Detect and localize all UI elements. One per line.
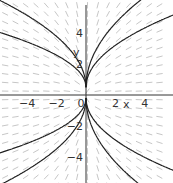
field-arrow <box>54 141 59 145</box>
field-arrow <box>54 46 59 50</box>
field-arrow <box>43 55 49 58</box>
field-arrow <box>12 125 18 126</box>
field-arrow <box>12 133 18 135</box>
field-arrow <box>97 28 99 34</box>
field-arrow <box>126 64 132 66</box>
field-arrow <box>44 166 49 170</box>
field-arrow <box>157 4 162 7</box>
field-arrow <box>33 56 39 58</box>
field-arrow <box>2 175 8 178</box>
field-arrow <box>33 73 39 74</box>
field-arrow <box>66 11 69 17</box>
field-arrow <box>33 47 39 50</box>
field-arrow <box>146 116 152 117</box>
field-arrow <box>43 64 49 66</box>
field-arrow <box>33 116 39 117</box>
field-arrow <box>105 124 110 128</box>
field-arrow <box>105 107 111 109</box>
solution-curve <box>86 15 173 88</box>
field-arrow <box>12 142 18 144</box>
field-arrow <box>105 64 110 68</box>
field-arrow <box>157 38 163 40</box>
field-arrow <box>23 82 29 83</box>
field-arrow <box>126 133 132 136</box>
field-arrow <box>156 82 162 83</box>
field-arrow <box>66 2 69 8</box>
field-arrow <box>2 133 8 135</box>
field-arrow <box>64 107 70 109</box>
field-arrow <box>23 73 29 74</box>
field-arrow <box>106 140 110 145</box>
field-arrow <box>97 11 99 17</box>
field-arrow <box>54 124 60 127</box>
field-arrow <box>156 65 162 66</box>
field-arrow <box>146 56 152 58</box>
field-arrow <box>97 174 99 180</box>
field-arrow <box>105 91 111 92</box>
field-arrow <box>54 73 60 75</box>
field-arrow <box>147 175 152 178</box>
field-arrow <box>2 125 8 126</box>
field-arrow <box>2 108 8 109</box>
field-arrow <box>34 175 39 179</box>
field-arrow <box>77 174 78 180</box>
field-arrow <box>12 108 18 109</box>
field-arrow <box>136 150 142 153</box>
field-arrow <box>105 73 111 76</box>
field-arrow <box>64 91 70 92</box>
field-arrow <box>126 166 131 170</box>
field-arrow <box>156 47 162 49</box>
field-arrow <box>43 82 49 83</box>
field-arrow <box>43 73 49 75</box>
field-arrow <box>126 47 132 50</box>
solution-curve <box>0 0 86 87</box>
field-arrow <box>156 142 162 144</box>
field-arrow <box>97 165 99 171</box>
x-tick-label: 4 <box>141 97 148 110</box>
direction-field-plot: −4−202442−2−4 x y <box>0 0 173 183</box>
field-arrow <box>146 167 152 170</box>
field-arrow <box>136 133 142 135</box>
field-arrow <box>106 55 111 59</box>
field-arrow <box>23 21 28 24</box>
field-arrow <box>116 149 121 153</box>
field-arrow <box>23 158 29 161</box>
field-arrow <box>44 38 49 42</box>
field-arrow <box>116 46 121 50</box>
field-arrow <box>13 12 19 15</box>
x-axis-label: x <box>123 98 130 111</box>
field-arrow <box>146 38 152 41</box>
field-arrow <box>95 115 100 119</box>
field-arrow <box>136 64 142 66</box>
field-arrow <box>74 90 80 91</box>
field-arrow <box>156 116 162 117</box>
field-arrow <box>147 3 152 7</box>
field-arrow <box>23 30 29 33</box>
field-arrow <box>76 19 78 25</box>
field-arrow <box>2 74 8 75</box>
field-arrow <box>13 21 19 24</box>
field-arrow <box>157 150 163 152</box>
field-arrow <box>157 167 163 170</box>
field-arrow <box>156 133 162 135</box>
field-arrow <box>12 56 18 58</box>
field-arrow <box>33 82 39 83</box>
field-arrow <box>33 150 39 153</box>
field-arrow <box>77 11 78 17</box>
field-arrow <box>106 20 109 25</box>
field-arrow <box>55 20 59 25</box>
field-arrow <box>12 73 18 74</box>
field-arrow <box>23 150 29 153</box>
field-arrow <box>33 133 39 135</box>
field-arrow <box>13 30 19 33</box>
field-arrow <box>97 157 99 163</box>
field-arrow <box>115 124 121 127</box>
field-arrow <box>126 20 131 24</box>
field-arrow <box>115 64 121 67</box>
field-arrow <box>156 56 162 58</box>
field-arrow <box>77 182 78 183</box>
field-arrow <box>136 82 142 83</box>
field-arrow <box>146 82 152 83</box>
field-arrow <box>146 150 152 153</box>
field-arrow <box>43 124 49 126</box>
